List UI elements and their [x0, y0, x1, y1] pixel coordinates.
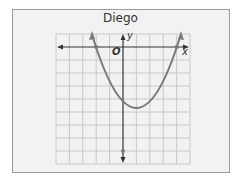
origin-label: O: [112, 46, 121, 57]
parabola-graph: [0, 0, 241, 182]
y-axis-label: y: [127, 30, 133, 41]
x-axis-label: x: [182, 46, 188, 57]
